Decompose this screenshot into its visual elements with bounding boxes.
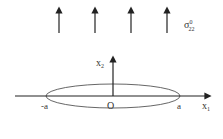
origin-label: O bbox=[107, 100, 114, 111]
right-tip-label: a bbox=[177, 101, 181, 111]
stress-arrows bbox=[59, 10, 167, 33]
stress-label: σ022 bbox=[184, 19, 194, 32]
x2-label: x2 bbox=[96, 57, 104, 69]
left-tip-label: -a bbox=[41, 101, 48, 111]
crack-diagram: σ022 x2 -a O a x1 bbox=[0, 0, 223, 139]
x1-label: x1 bbox=[202, 100, 210, 112]
